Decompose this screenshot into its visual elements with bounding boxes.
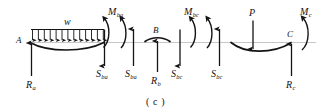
moment-label-mc: Mc: [300, 7, 311, 17]
moment-mbc-left-arc: [191, 19, 196, 48]
point-load-label: P: [249, 8, 255, 18]
moment-mbc-base: M: [184, 6, 192, 17]
moment-mc-arc: [302, 18, 308, 50]
shear-sba-left-sub: ba: [101, 73, 108, 80]
distributed-load-label: w: [64, 17, 71, 27]
moment-label-mba: Mba: [108, 7, 123, 17]
shear-label-sbc-left: Sbc: [171, 69, 182, 79]
figure-caption: ( c ): [146, 96, 165, 107]
moment-mba-base: M: [108, 6, 116, 17]
moment-label-mbc: Mbc: [184, 7, 198, 17]
moment-mbc-right-arc: [207, 19, 212, 49]
moment-mba-right-arc: [121, 19, 126, 49]
segment-bc: [207, 18, 308, 76]
reaction-label-ra: Ra: [26, 80, 35, 90]
deflection-curve-ab: [30, 43, 104, 51]
structural-free-body-diagram: A B C w P Mba Mbc Mc Sba Sba Sbc Sbc Ra …: [0, 0, 325, 112]
reaction-ra-sub: a: [32, 84, 35, 91]
shear-label-sba-left: Sba: [96, 69, 108, 79]
node-label-b: B: [153, 26, 159, 35]
moment-mbc-sub: bc: [193, 11, 199, 18]
node-label-a: A: [16, 36, 22, 45]
moment-mba-sub: ba: [117, 11, 124, 18]
reaction-rb-sub: b: [157, 80, 160, 87]
reaction-label-rb: Rb: [151, 76, 160, 86]
node-label-c: C: [287, 30, 293, 39]
deflection-curve-b: [145, 38, 170, 42]
moment-mc-base: M: [300, 6, 308, 17]
deflection-curve-bc: [231, 43, 291, 52]
shear-sbc-left-sub: bc: [176, 73, 182, 80]
moment-mc-sub: c: [309, 11, 312, 18]
shear-sbc-right-sub: bc: [216, 73, 222, 80]
distributed-load-arrows: [33, 30, 104, 40]
shear-sba-right-sub: ba: [130, 73, 137, 80]
shear-label-sba-right: Sba: [125, 69, 137, 79]
shear-label-sbc-right: Sbc: [211, 69, 222, 79]
reaction-rc-sub: c: [292, 84, 295, 91]
reaction-label-rc: Rc: [286, 80, 295, 90]
